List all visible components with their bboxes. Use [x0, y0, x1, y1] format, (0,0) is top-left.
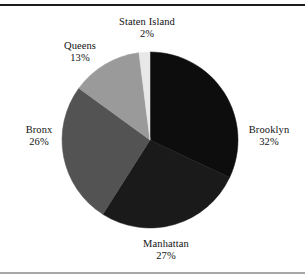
pie-label-staten-island: Staten Island 2%: [91, 16, 203, 41]
pie-label-queens-name: Queens: [35, 40, 125, 52]
pie-label-staten-island-value: 2%: [91, 28, 203, 40]
pie-label-queens-value: 13%: [35, 52, 125, 64]
pie-chart-figure: Staten Island 2% Queens 13% Bronx 26% Br…: [0, 0, 305, 280]
pie-label-queens: Queens 13%: [35, 40, 125, 65]
pie-label-bronx-value: 26%: [2, 136, 76, 148]
pie-label-brooklyn-name: Brooklyn: [232, 124, 305, 136]
pie-chart-plot-area: Staten Island 2% Queens 13% Bronx 26% Br…: [0, 0, 305, 280]
bottom-divider-rule: [0, 272, 305, 274]
pie-label-manhattan-name: Manhattan: [116, 238, 216, 250]
pie-slice-group: [62, 52, 238, 228]
pie-label-manhattan-value: 27%: [116, 250, 216, 262]
pie-label-brooklyn-value: 32%: [232, 136, 305, 148]
pie-label-manhattan: Manhattan 27%: [116, 238, 216, 263]
pie-label-bronx: Bronx 26%: [2, 124, 76, 149]
pie-label-bronx-name: Bronx: [2, 124, 76, 136]
pie-label-staten-island-name: Staten Island: [91, 16, 203, 28]
pie-label-brooklyn: Brooklyn 32%: [232, 124, 305, 149]
